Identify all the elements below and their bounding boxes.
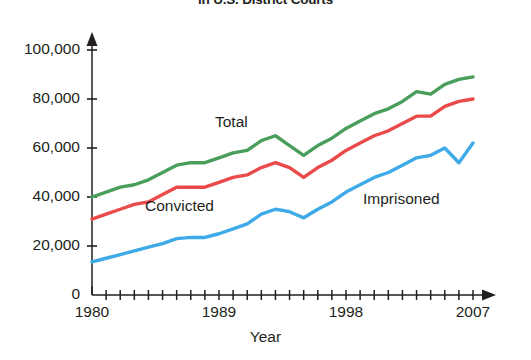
y-axis-tick-label: 80,000 (0, 89, 80, 107)
series-label-imprisoned: Imprisoned (363, 190, 440, 208)
series-group (92, 77, 473, 262)
y-axis-tick-label: 60,000 (0, 138, 80, 156)
chart-page: in U.S. District Courts Total Convicted … (0, 0, 531, 360)
y-axis-tick-label: 40,000 (0, 187, 80, 205)
axes-group (87, 32, 497, 301)
x-axis-arrow-icon (482, 290, 496, 301)
y-axis-arrow-icon (87, 32, 98, 46)
series-line-total (92, 77, 473, 197)
y-axis-tick-label: 20,000 (0, 236, 80, 254)
x-axis-tick-label: 1980 (52, 303, 132, 321)
series-label-convicted: Convicted (145, 197, 214, 215)
y-axis-tick-label: 0 (0, 285, 80, 303)
x-axis-title: Year (0, 328, 531, 346)
series-label-total: Total (215, 113, 248, 131)
x-axis-tick-label: 1998 (306, 303, 386, 321)
y-axis-tick-label: 100,000 (0, 40, 80, 58)
x-axis-tick-label: 2007 (433, 303, 513, 321)
x-axis-tick-label: 1989 (179, 303, 259, 321)
